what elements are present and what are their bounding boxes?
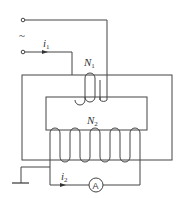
ammeter-label: A bbox=[93, 181, 99, 191]
ac-source-symbol: ~ bbox=[19, 29, 25, 41]
i1-label: i1 bbox=[43, 37, 50, 51]
terminal-top bbox=[21, 18, 25, 22]
n1-winding bbox=[72, 73, 95, 102]
primary-wire-bottom bbox=[25, 52, 72, 75]
current-transformer-diagram: ~ i1 N1 N2 i2 A bbox=[0, 0, 184, 198]
ground-wire bbox=[21, 167, 50, 183]
n1-label: N1 bbox=[83, 56, 95, 70]
n1-loop-right bbox=[100, 97, 107, 101]
n1-loop-left bbox=[75, 97, 85, 105]
terminal-bottom bbox=[21, 50, 25, 54]
i2-label: i2 bbox=[61, 170, 68, 184]
secondary-wire-left bbox=[50, 160, 89, 185]
core-outer bbox=[22, 75, 172, 160]
n2-label: N2 bbox=[86, 114, 98, 128]
